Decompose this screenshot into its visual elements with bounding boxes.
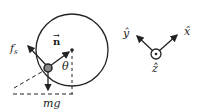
left-diagram: fs n → θ mg: [9, 14, 108, 110]
normal-label-arrow: →: [53, 30, 60, 40]
angle-label: θ: [62, 60, 69, 73]
y-axis-arrow: [137, 36, 153, 51]
friction-label: fs: [9, 42, 18, 56]
force-diagram: fs n → θ mg ŷ x̂ ẑ: [0, 0, 203, 111]
z-axis-label: ẑ: [151, 62, 158, 75]
z-axis-dot: [155, 53, 158, 56]
weight-label: mg: [43, 97, 60, 110]
x-axis-label: x̂: [184, 25, 191, 38]
center-dot: [70, 48, 74, 52]
friction-force-arrow: [28, 46, 47, 66]
x-axis-arrow: [159, 35, 177, 51]
right-diagram-axes: ŷ x̂ ẑ: [122, 25, 191, 75]
incline-dashed-line: [14, 70, 45, 88]
y-axis-label: ŷ: [122, 27, 130, 40]
ball: [44, 64, 52, 72]
